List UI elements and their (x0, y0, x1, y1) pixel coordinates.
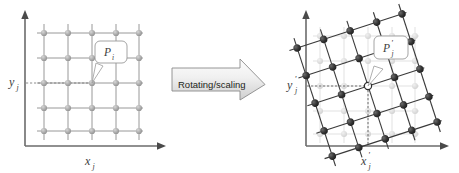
left-axis-labels: y j x j (8, 75, 96, 171)
left-y-axis-arrowhead (21, 10, 28, 19)
original-grid-panel: P i y j x j (8, 10, 166, 171)
right-y-axis-arrowhead (302, 10, 309, 19)
left-callout-tail (92, 63, 103, 83)
right-callout-subscript: j (391, 49, 394, 58)
right-x-axis-label-subscript: j (368, 162, 372, 171)
left-y-axis-label: y (8, 75, 15, 89)
left-y-axis-label-subscript: j (16, 83, 20, 92)
left-x-axis-label: x (84, 154, 91, 168)
left-x-axis-label-subscript: j (92, 162, 96, 171)
left-x-axis-arrowhead (157, 142, 166, 149)
right-y-axis-label-prime: ' (295, 74, 298, 84)
transformation-figure: P i y j x j Rotating/scaling (0, 0, 459, 173)
right-x-axis-label-prime: ' (368, 150, 371, 160)
right-y-axis-label: y (286, 78, 293, 92)
right-x-axis-label: x (360, 154, 367, 168)
transformed-grid-panel: P ' j y ' j x ' j (286, 3, 449, 171)
left-callout: P i (92, 41, 127, 83)
right-y-axis-label-subscript: j (294, 86, 298, 95)
right-callout-label: P (382, 42, 390, 54)
left-callout-subscript: i (112, 53, 114, 62)
transition-arrow: Rotating/scaling (172, 59, 265, 100)
transition-arrow-label: Rotating/scaling (178, 79, 246, 90)
right-x-axis-arrowhead (440, 142, 449, 149)
left-callout-label: P (103, 46, 111, 58)
